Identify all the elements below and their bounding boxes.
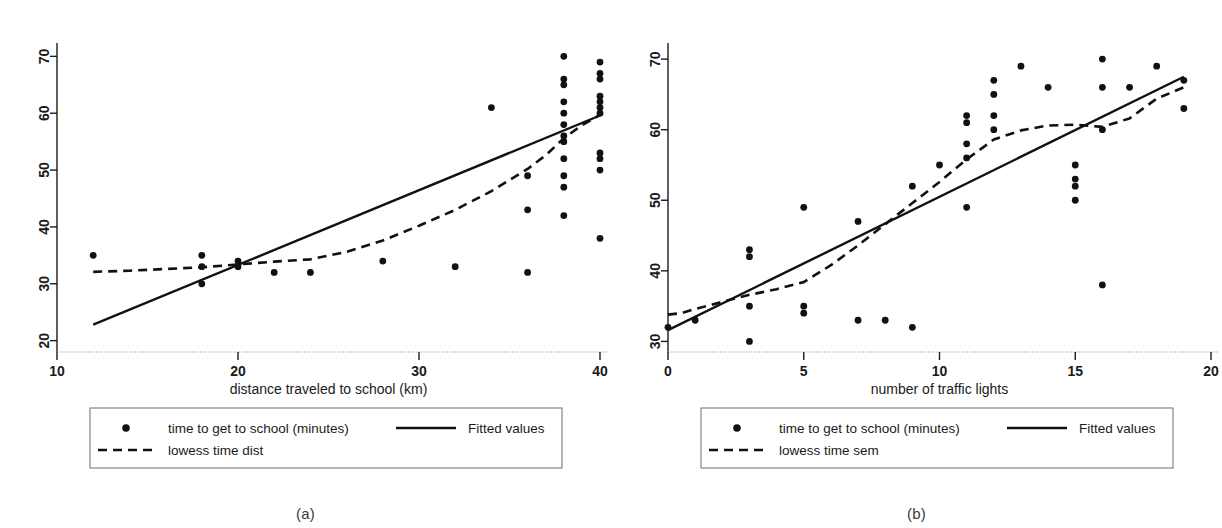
x-tick-label: 10	[932, 363, 948, 379]
data-point	[1072, 183, 1079, 190]
y-tick-label: 30	[647, 333, 663, 349]
data-point	[1072, 197, 1079, 204]
data-point	[990, 91, 997, 98]
data-point	[560, 184, 567, 191]
x-tick-label: 15	[1067, 363, 1083, 379]
data-point	[800, 310, 807, 317]
data-point	[963, 140, 970, 147]
x-axis-title: number of traffic lights	[871, 381, 1008, 397]
legend-label-lowess: lowess time sem	[779, 443, 879, 458]
data-point	[560, 172, 567, 179]
y-tick-label: 50	[647, 192, 663, 208]
fitted-line	[668, 77, 1184, 330]
legend-label-fitted: Fitted values	[1079, 421, 1156, 436]
legend-label-points: time to get to school (minutes)	[168, 421, 349, 436]
panel-a-caption: (a)	[0, 505, 611, 522]
data-point	[524, 172, 531, 179]
data-point	[379, 258, 386, 265]
data-point	[1126, 84, 1133, 91]
data-point	[307, 269, 314, 276]
legend-label-points: time to get to school (minutes)	[779, 421, 960, 436]
legend-label-lowess: lowess time dist	[168, 443, 264, 458]
data-point	[990, 112, 997, 119]
data-point	[882, 317, 889, 324]
data-point	[597, 59, 604, 66]
legend-marker-point	[733, 424, 741, 432]
data-point	[1072, 176, 1079, 183]
fitted-line	[93, 116, 600, 325]
y-tick-label: 40	[647, 263, 663, 279]
data-point	[560, 81, 567, 88]
scatter-plot-b: 304050607005101520number of traffic ligh…	[611, 0, 1222, 480]
data-point	[1180, 105, 1187, 112]
data-point	[524, 206, 531, 213]
y-tick-label: 20	[36, 333, 52, 349]
data-point	[909, 183, 916, 190]
legend-label-fitted: Fitted values	[468, 421, 545, 436]
x-axis-title: distance traveled to school (km)	[230, 381, 428, 397]
data-point	[1099, 84, 1106, 91]
x-tick-label: 20	[230, 363, 246, 379]
x-tick-label: 30	[411, 363, 427, 379]
data-point	[271, 269, 278, 276]
scatter-plot-a: 20304050607010203040distance traveled to…	[0, 0, 611, 480]
lowess-line	[93, 115, 600, 272]
data-point	[560, 53, 567, 60]
data-point	[524, 269, 531, 276]
x-tick-label: 20	[1203, 363, 1219, 379]
data-point	[1099, 56, 1106, 63]
data-point	[855, 317, 862, 324]
data-point	[746, 338, 753, 345]
data-point	[963, 119, 970, 126]
data-point	[597, 155, 604, 162]
data-point	[90, 252, 97, 259]
data-point	[198, 252, 205, 259]
x-tick-label: 10	[49, 363, 65, 379]
data-point	[909, 324, 916, 331]
data-point	[800, 303, 807, 310]
data-point	[1018, 63, 1025, 70]
y-tick-label: 50	[36, 162, 52, 178]
y-tick-label: 60	[36, 105, 52, 121]
y-tick-label: 60	[647, 122, 663, 138]
data-point	[800, 204, 807, 211]
data-point	[597, 167, 604, 174]
x-tick-label: 0	[664, 363, 672, 379]
y-tick-label: 40	[36, 219, 52, 235]
x-tick-label: 40	[592, 363, 608, 379]
y-tick-label: 30	[36, 276, 52, 292]
legend-box	[701, 408, 1173, 468]
data-point	[488, 104, 495, 111]
data-point	[746, 246, 753, 253]
scatter-series-points	[665, 56, 1188, 345]
panel-b-caption: (b)	[611, 505, 1222, 522]
data-point	[990, 77, 997, 84]
data-point	[1045, 84, 1052, 91]
data-point	[1153, 63, 1160, 70]
data-point	[597, 235, 604, 242]
y-tick-label: 70	[647, 51, 663, 67]
x-tick-label: 5	[800, 363, 808, 379]
data-point	[1099, 282, 1106, 289]
data-point	[963, 112, 970, 119]
legend-box	[90, 408, 562, 468]
data-point	[560, 98, 567, 105]
data-point	[746, 253, 753, 260]
lowess-line	[668, 87, 1184, 314]
legend-marker-point	[122, 424, 130, 432]
panel-b: 304050607005101520number of traffic ligh…	[611, 0, 1222, 528]
data-point	[1072, 162, 1079, 169]
data-point	[560, 155, 567, 162]
data-point	[936, 162, 943, 169]
data-point	[746, 303, 753, 310]
data-point	[560, 110, 567, 117]
figure-container: 20304050607010203040distance traveled to…	[0, 0, 1222, 528]
data-point	[855, 218, 862, 225]
data-point	[963, 204, 970, 211]
data-point	[452, 263, 459, 270]
data-point	[560, 212, 567, 219]
data-point	[597, 76, 604, 83]
y-tick-label: 70	[36, 48, 52, 64]
panel-a: 20304050607010203040distance traveled to…	[0, 0, 611, 528]
data-point	[560, 121, 567, 128]
